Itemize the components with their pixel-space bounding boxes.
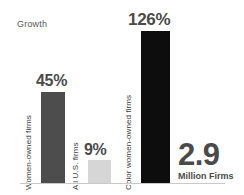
- category-label-women-owned-firms: Women-owned firms: [24, 115, 33, 190]
- value-label-all-us-firms: 9%: [84, 141, 107, 159]
- annotation-block: 2.9 Million Firms: [178, 140, 234, 182]
- bar-color-women-owned-firms: [141, 31, 170, 183]
- annotation-caption: Million Firms: [178, 171, 234, 182]
- growth-bar-chart: Growth 45% Women-owned firms 9% All U.S.…: [0, 0, 244, 195]
- annotation-number: 2.9: [178, 140, 234, 170]
- value-label-color-women-owned-firms: 126%: [128, 10, 170, 30]
- bar-women-owned-firms: [41, 92, 65, 183]
- category-label-color-women-owned-firms: Color women-owned firms: [124, 95, 133, 190]
- axis-baseline: [20, 183, 225, 184]
- bar-all-us-firms: [88, 160, 111, 183]
- value-label-women-owned-firms: 45%: [36, 72, 67, 90]
- chart-title: Growth: [17, 19, 47, 29]
